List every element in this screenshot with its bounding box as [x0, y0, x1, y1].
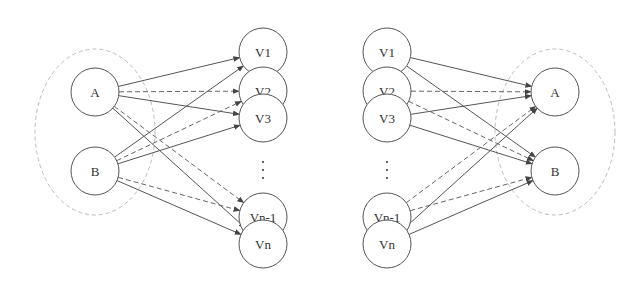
node-a: A: [71, 68, 119, 116]
node-vn: Vn: [239, 220, 287, 268]
node-b: B: [531, 147, 579, 195]
edge-vn-to-a: [405, 108, 537, 228]
node-label: V1: [255, 45, 271, 60]
ellipsis-dot: [386, 161, 388, 163]
edge-a-to-vn: [113, 108, 245, 228]
edge-a-to-v2: [119, 91, 239, 92]
ellipsis-dot: [386, 169, 388, 171]
ellipsis-dot: [262, 169, 264, 171]
node-label: B: [551, 164, 560, 179]
node-label: Vn: [255, 237, 271, 252]
node-v3: V3: [239, 94, 287, 142]
node-v3: V3: [363, 94, 411, 142]
node-label: A: [90, 85, 100, 100]
ellipsis-dot: [386, 177, 388, 179]
ellipsis-dot: [262, 177, 264, 179]
node-label: B: [91, 164, 100, 179]
edge-v2-to-a: [411, 91, 531, 92]
node-label: Vn: [379, 237, 395, 252]
ellipsis-dot: [262, 161, 264, 163]
edge-v3-to-b: [410, 125, 532, 164]
node-label: A: [550, 85, 560, 100]
edge-b-to-v3: [118, 125, 240, 164]
node-label: V3: [255, 111, 271, 126]
edge-b-to-vn-1: [118, 177, 240, 210]
node-vn: Vn: [363, 220, 411, 268]
right-panel: V1V2V3Vn-1VnAB: [363, 28, 615, 268]
node-a: A: [531, 68, 579, 116]
left-panel: ABV1V2V3Vn-1Vn: [35, 28, 287, 268]
edge-vn-1-to-b: [410, 177, 532, 210]
node-label: V3: [379, 111, 395, 126]
node-b: B: [71, 147, 119, 195]
node-label: V1: [379, 45, 395, 60]
bipartite-diagram: ABV1V2V3Vn-1Vn V1V2V3Vn-1VnAB: [0, 0, 641, 291]
